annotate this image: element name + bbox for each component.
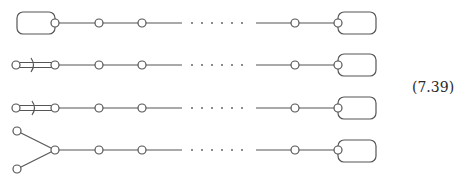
- ellipsis-dots: [191, 149, 243, 151]
- equation-number: (7.39): [412, 79, 454, 95]
- ellipsis-dots: [191, 107, 243, 109]
- left-loop-box: [17, 12, 55, 34]
- chain-row-4: [13, 127, 376, 173]
- right-loop-box: [338, 12, 376, 34]
- chain-nodes: [51, 19, 342, 27]
- fork-edge-upper: [17, 131, 55, 150]
- ellipsis-dots: [191, 22, 243, 24]
- chain-row-2: [12, 54, 376, 76]
- crossing-arc: [32, 101, 35, 115]
- chain-row-1: [17, 12, 376, 34]
- chain-row-3: [12, 97, 376, 119]
- right-loop-box: [338, 97, 376, 119]
- right-loop-box: [338, 140, 376, 162]
- fork-edge-lower: [17, 150, 55, 169]
- quiver-diagram: [0, 0, 459, 181]
- crossing-arc: [31, 58, 34, 72]
- ellipsis-dots: [191, 64, 243, 66]
- right-loop-box: [338, 54, 376, 76]
